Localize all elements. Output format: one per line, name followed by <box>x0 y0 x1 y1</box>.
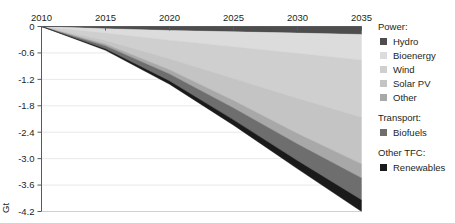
y-tick-label: -2.4 <box>18 127 34 138</box>
legend-item-biofuels[interactable]: Biofuels <box>378 125 455 139</box>
legend-group: Transport:Biofuels <box>378 111 455 139</box>
legend-swatch-icon <box>380 52 387 59</box>
legend-swatch-icon <box>380 129 387 136</box>
legend-group-heading: Other TFC: <box>378 146 455 159</box>
x-tick-label: 2025 <box>223 12 244 23</box>
y-axis-ticks: 0-0.6-1.2-1.8-2.4-3.0-3.6-4.2 <box>18 21 41 217</box>
legend-item-label: Other <box>393 91 417 104</box>
y-tick-label: -1.8 <box>18 100 34 111</box>
legend-item-label: Hydro <box>393 35 418 48</box>
legend-swatch-icon <box>380 164 387 171</box>
x-tick-label: 2015 <box>95 12 116 23</box>
y-tick-label: -3.6 <box>18 179 34 190</box>
legend-item-label: Biofuels <box>393 126 427 139</box>
legend-item-label: Solar PV <box>393 77 431 90</box>
y-tick-label: -0.6 <box>18 47 34 58</box>
y-tick-label: -4.2 <box>18 206 34 217</box>
legend-swatch-icon <box>380 80 387 87</box>
area-bands <box>42 27 362 212</box>
legend-group-heading: Transport: <box>378 111 455 124</box>
legend-swatch-icon <box>380 38 387 45</box>
legend-item-label: Bioenergy <box>393 49 436 62</box>
legend-group: Power:HydroBioenergyWindSolar PVOther <box>378 20 455 104</box>
y-axis-unit-label: Gt <box>0 203 11 213</box>
x-tick-label: 2030 <box>287 12 308 23</box>
legend-group-heading: Power: <box>378 20 455 33</box>
legend-item-hydro[interactable]: Hydro <box>378 34 455 48</box>
chart-container: 201020152020202520302035 0-0.6-1.2-1.8-2… <box>0 0 455 223</box>
legend-item-renewables[interactable]: Renewables <box>378 160 455 174</box>
legend-swatch-icon <box>380 94 387 101</box>
legend-item-other[interactable]: Other <box>378 90 455 104</box>
legend-item-solar-pv[interactable]: Solar PV <box>378 76 455 90</box>
y-tick-label: -3.0 <box>18 153 34 164</box>
legend-item-label: Renewables <box>393 161 445 174</box>
x-tick-label: 2035 <box>351 12 372 23</box>
chart-legend: Power:HydroBioenergyWindSolar PVOtherTra… <box>378 20 455 181</box>
legend-item-wind[interactable]: Wind <box>378 62 455 76</box>
x-tick-label: 2020 <box>159 12 180 23</box>
y-tick-label: -1.2 <box>18 74 34 85</box>
y-tick-label: 0 <box>29 21 34 32</box>
legend-item-bioenergy[interactable]: Bioenergy <box>378 48 455 62</box>
legend-item-label: Wind <box>393 63 415 76</box>
legend-group: Other TFC:Renewables <box>378 146 455 174</box>
legend-swatch-icon <box>380 66 387 73</box>
